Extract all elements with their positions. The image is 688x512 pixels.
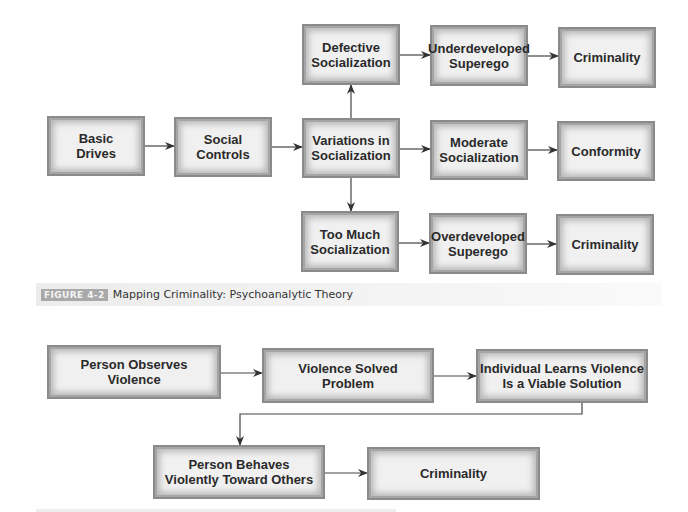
node-moderate-socialization: Moderate Socialization xyxy=(430,120,528,180)
node-too-much-socialization: Too Much Socialization xyxy=(301,211,399,272)
node-criminality-bottom: Criminality xyxy=(556,214,654,275)
node-underdeveloped-superego: Underdeveloped Superego xyxy=(430,25,528,86)
figure-title: Mapping Criminality: Psychoanalytic Theo… xyxy=(113,288,353,301)
node-conformity: Conformity xyxy=(557,121,655,181)
node-individual-learns-violence: Individual Learns Violence Is a Viable S… xyxy=(476,349,648,403)
arrow-learns-to-behaves xyxy=(240,403,582,445)
figure-number-label: FIGURE 4-2 xyxy=(41,289,108,301)
node-defective-socialization: Defective Socialization xyxy=(302,24,400,85)
node-person-behaves-violently: Person Behaves Violently Toward Others xyxy=(153,445,325,499)
figure-caption: FIGURE 4-2 Mapping Criminality: Psychoan… xyxy=(36,283,662,306)
node-social-controls: Social Controls xyxy=(174,117,272,177)
node-variations-in-socialization: Variations in Socialization xyxy=(302,118,400,178)
node-overdeveloped-superego: Overdeveloped Superego xyxy=(429,213,527,274)
node-criminality: Criminality xyxy=(367,447,540,500)
node-basic-drives: Basic Drives xyxy=(47,116,145,176)
node-person-observes-violence: Person Observes Violence xyxy=(47,345,221,399)
node-criminality-top: Criminality xyxy=(558,27,656,88)
node-violence-solved-problem: Violence Solved Problem xyxy=(262,348,434,403)
